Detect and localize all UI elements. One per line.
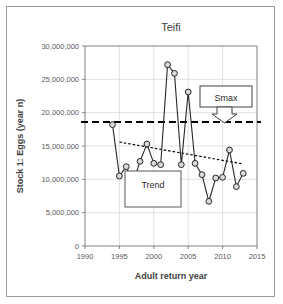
figure-frame: 30,000,000 25,000,000 20,000,000 15,000,… [6, 6, 275, 297]
y-tick-label-25000000: 25,000,000 [41, 75, 79, 84]
y-tick-label-10000000: 10,000,000 [41, 175, 79, 184]
data-point-marker [123, 164, 129, 170]
x-tick-label-2015: 2015 [249, 252, 266, 261]
data-point-marker [220, 174, 226, 180]
x-axis-title: Adult return year [135, 271, 208, 281]
data-point-marker [144, 141, 150, 147]
smax-callout-label: Smax [214, 93, 238, 103]
data-point-marker [178, 162, 184, 168]
x-tick-label-2000: 2000 [145, 252, 162, 261]
data-point-marker [227, 147, 233, 153]
y-tick-label-15000000: 15,000,000 [41, 142, 79, 151]
trend-callout: Trend [125, 171, 181, 207]
data-point-marker [192, 160, 198, 166]
data-point-marker [240, 170, 246, 176]
data-point-marker [233, 184, 239, 190]
data-point-marker [199, 172, 205, 178]
data-point-marker [185, 89, 191, 95]
data-point-marker [165, 62, 171, 68]
x-tick-label-1990: 1990 [77, 252, 94, 261]
chart-title: Teifi [161, 21, 181, 33]
trend-callout-label: Trend [141, 180, 164, 190]
y-axis-title: Stock 1: Eggs (year n) [15, 99, 25, 194]
data-point-marker [172, 70, 178, 76]
data-point-marker [151, 160, 157, 166]
data-point-marker [206, 198, 212, 204]
data-point-marker [110, 122, 116, 128]
x-tick-label-1995: 1995 [111, 252, 128, 261]
y-tick-label-0: 0 [75, 242, 79, 251]
y-tick-label-20000000: 20,000,000 [41, 108, 79, 117]
y-tick-label-30000000: 30,000,000 [41, 42, 79, 51]
data-point-marker [137, 158, 143, 164]
y-tick-label-5000000: 5,000,000 [46, 208, 79, 217]
x-tick-label-2005: 2005 [180, 252, 197, 261]
data-point-marker [158, 162, 164, 168]
chart-canvas: 30,000,000 25,000,000 20,000,000 15,000,… [7, 7, 274, 296]
data-point-marker [213, 175, 219, 181]
data-point-marker [117, 173, 123, 179]
x-tick-label-2010: 2010 [214, 252, 231, 261]
